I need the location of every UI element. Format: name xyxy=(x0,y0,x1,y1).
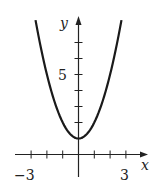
x-tick-label-neg3: −3 xyxy=(14,167,35,183)
x-axis-label: x xyxy=(141,157,149,173)
y-axis-label: y xyxy=(59,15,69,31)
y-axis-arrow-icon xyxy=(76,16,82,25)
parabola-chart: y x 5 −3 3 xyxy=(0,0,155,193)
x-tick-label-3: 3 xyxy=(120,167,129,183)
y-tick-label-5: 5 xyxy=(58,67,67,83)
